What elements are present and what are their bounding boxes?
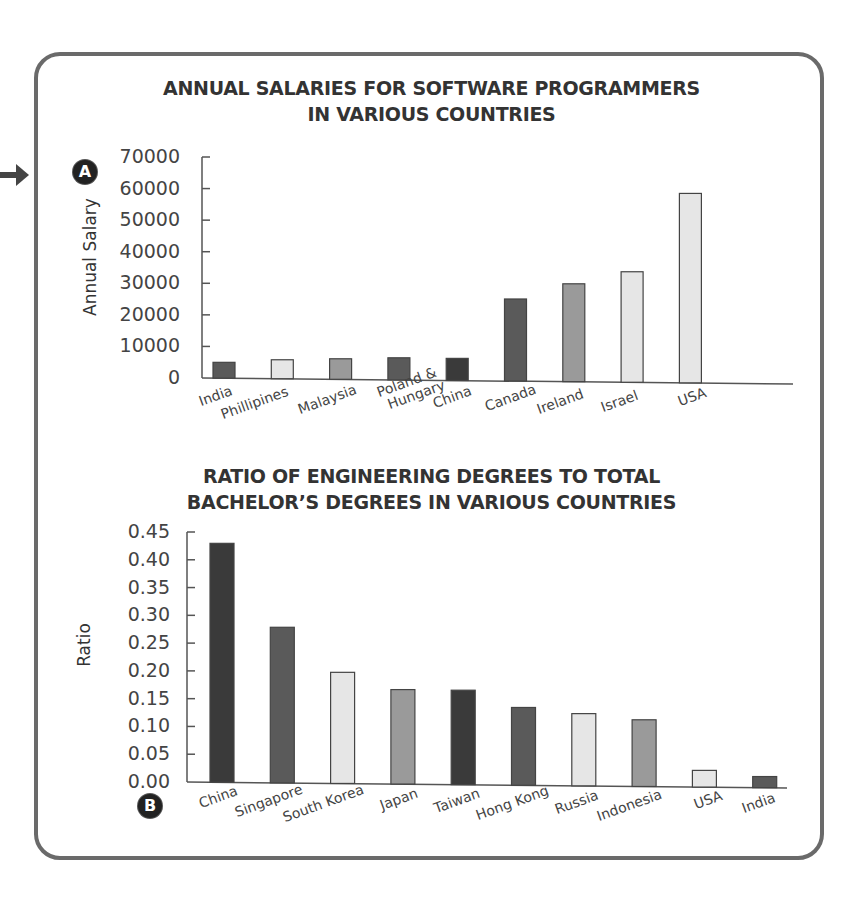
bar-china	[210, 543, 234, 782]
chart-b-plot	[0, 0, 863, 910]
bar-india	[753, 777, 777, 788]
bar-singapore	[270, 627, 294, 783]
bar-south-korea	[331, 672, 355, 783]
bar-usa	[692, 770, 716, 787]
bar-hong-kong	[512, 707, 536, 785]
bar-japan	[391, 690, 415, 784]
bar-indonesia	[632, 720, 656, 787]
bar-russia	[572, 714, 596, 786]
bar-taiwan	[451, 690, 475, 784]
